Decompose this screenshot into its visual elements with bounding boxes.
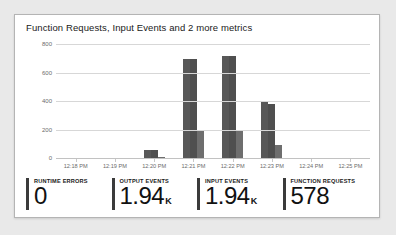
kpi-unit: K <box>165 196 172 206</box>
x-tick-label: 12:22 PM <box>221 163 245 169</box>
kpi-tile[interactable]: Runtime Errors0 <box>26 177 112 211</box>
gridline-200: 200 <box>56 130 370 131</box>
y-tick-label: 200 <box>42 127 52 133</box>
x-tick-mark <box>76 159 77 162</box>
kpi-accent-bar <box>112 178 115 210</box>
metrics-card: Function Requests, Input Events and 2 mo… <box>14 14 380 218</box>
kpi-tile[interactable]: Input Events1.94K <box>197 177 283 211</box>
gridline-400: 400 <box>56 101 370 102</box>
x-tick-mark <box>154 159 155 162</box>
page-title: Function Requests, Input Events and 2 mo… <box>26 22 252 33</box>
bar-cluster <box>339 45 361 159</box>
kpi-accent-bar <box>26 178 29 210</box>
kpi-number: 0 <box>34 183 47 208</box>
x-tick-label: 12:21 PM <box>181 163 205 169</box>
bar <box>229 56 236 159</box>
x-tick-label: 12:20 PM <box>142 163 166 169</box>
kpi-value: 1.94K <box>205 183 283 208</box>
x-tick-mark <box>350 159 351 162</box>
x-tick-mark <box>115 159 116 162</box>
x-tick-label: 12:19 PM <box>103 163 127 169</box>
chart-bars <box>56 45 370 159</box>
bar <box>183 59 190 159</box>
x-tick-mark <box>233 159 234 162</box>
gridline-0: 0 <box>56 158 370 159</box>
x-tick-label: 12:24 PM <box>299 163 323 169</box>
kpi-number: 578 <box>291 183 330 208</box>
y-tick-label: 0 <box>49 155 52 161</box>
bar-cluster <box>104 45 126 159</box>
kpi-value: 0 <box>34 183 112 208</box>
bar <box>268 104 275 159</box>
bar-cluster <box>182 45 204 159</box>
bar-cluster <box>300 45 322 159</box>
kpi-unit: K <box>251 196 258 206</box>
y-tick-label: 400 <box>42 98 52 104</box>
kpi-value: 1.94K <box>120 183 198 208</box>
bar-cluster <box>222 45 244 159</box>
kpi-value: 578 <box>291 183 369 208</box>
gridline-600: 600 <box>56 73 370 74</box>
x-tick-mark <box>193 159 194 162</box>
kpi-row: Runtime Errors0Output Events1.94KInput E… <box>26 177 368 211</box>
bar <box>190 59 197 159</box>
x-tick-label: 12:23 PM <box>260 163 284 169</box>
kpi-accent-bar <box>283 178 286 210</box>
bar <box>275 145 282 159</box>
kpi-number: 1.94 <box>120 183 165 208</box>
gridline-800: 800 <box>56 44 370 45</box>
bar-cluster <box>65 45 87 159</box>
kpi-accent-bar <box>197 178 200 210</box>
x-tick-mark <box>311 159 312 162</box>
bar <box>261 102 268 159</box>
y-tick-label: 800 <box>42 41 52 47</box>
bar <box>236 131 243 160</box>
kpi-number: 1.94 <box>205 183 250 208</box>
x-tick-mark <box>272 159 273 162</box>
bar-chart: 0200400600800 12:18 PM12:19 PM12:20 PM12… <box>26 39 370 179</box>
kpi-tile[interactable]: Function Requests578 <box>283 177 369 211</box>
chart-plot-area: 0200400600800 <box>56 45 370 159</box>
y-tick-label: 600 <box>42 70 52 76</box>
chart-x-axis: 12:18 PM12:19 PM12:20 PM12:21 PM12:22 PM… <box>56 163 370 175</box>
bar-cluster <box>143 45 165 159</box>
bar <box>197 130 204 159</box>
kpi-tile[interactable]: Output Events1.94K <box>112 177 198 211</box>
bar-cluster <box>261 45 283 159</box>
x-tick-label: 12:25 PM <box>338 163 362 169</box>
x-tick-label: 12:18 PM <box>64 163 88 169</box>
